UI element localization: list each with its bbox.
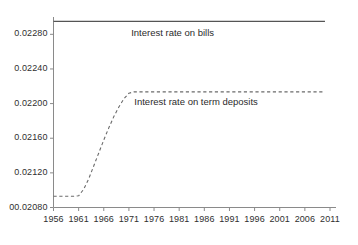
chart-axes: [54, 17, 337, 208]
y-axis-tick-label: 0.02160: [14, 133, 47, 142]
y-axis-tick-label: 0.02240: [14, 64, 47, 73]
y-axis-tick-label: 0.02280: [14, 29, 47, 38]
x-axis-tick-label: 1991: [215, 215, 243, 224]
y-axis-tick-label: 0.02120: [14, 168, 47, 177]
x-axis-ticks: [54, 208, 331, 212]
x-axis-tick-label: 2006: [291, 215, 319, 224]
x-axis-tick-label: 1981: [165, 215, 193, 224]
y-axis-tick-label: 00.02080: [9, 203, 47, 212]
x-axis-tick-label: 1996: [241, 215, 269, 224]
x-axis-tick-label: 1976: [140, 215, 168, 224]
series-label-interest-rate-on-bills: Interest rate on bills: [131, 28, 214, 38]
y-axis-tick-label: 0.02200: [14, 99, 47, 108]
y-axis-ticks: [50, 34, 54, 207]
x-axis-tick-label: 1961: [65, 215, 93, 224]
x-axis-tick-label: 1956: [40, 215, 68, 224]
chart-series-lines: [54, 21, 325, 196]
x-axis-tick-label: 2001: [266, 215, 294, 224]
x-axis-tick-label: 1966: [90, 215, 118, 224]
x-axis-tick-label: 1986: [190, 215, 218, 224]
series-label-interest-rate-on-term-deposits: Interest rate on term deposits: [134, 97, 258, 107]
x-axis-tick-label: 1971: [115, 215, 143, 224]
interest-rate-line-chart: 00.020800.021200.021600.022000.022400.02…: [0, 0, 358, 245]
series-line-term-deposits: [54, 92, 325, 196]
x-axis-tick-label: 2011: [316, 215, 344, 224]
